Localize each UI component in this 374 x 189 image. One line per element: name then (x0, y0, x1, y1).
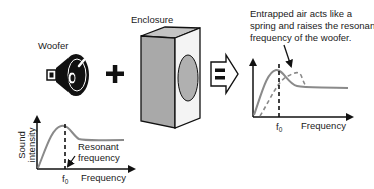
f-subscript: 0 (65, 178, 69, 185)
caption-line: frequency of the woofer. (250, 32, 370, 44)
woofer-label: Woofer (38, 40, 68, 51)
plus-icon (106, 65, 124, 83)
enclosure-label: Enclosure (131, 14, 173, 25)
right-chart (253, 60, 352, 117)
right-chart-f0-label: f0 (276, 121, 282, 135)
caption-line: Entrapped air acts like a (250, 8, 370, 20)
resonant-annotation-line2: frequency (78, 152, 120, 163)
ylabel-line2: intensity (27, 122, 37, 168)
caption-text: Entrapped air acts like a spring and rai… (250, 8, 370, 44)
left-chart-ylabel: Sound intensity (17, 122, 37, 168)
woofer-speaker-icon (47, 54, 89, 96)
enclosure-box-icon (141, 27, 200, 128)
f-subscript: 0 (279, 126, 283, 133)
left-chart-f0-label: f0 (62, 173, 68, 187)
resonant-annotation-line1: Resonant (78, 141, 119, 152)
caption-pointer-arrow (284, 45, 291, 66)
result-arrow-icon (211, 55, 238, 93)
caption-line: spring and raises the resonant (250, 20, 370, 32)
left-chart-xlabel: Frequency (81, 172, 126, 183)
right-chart-xlabel: Frequency (301, 120, 346, 131)
